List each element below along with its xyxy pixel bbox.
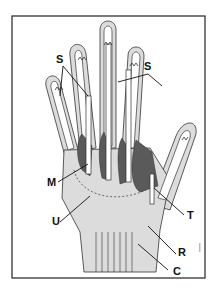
label-m: M [47, 177, 56, 188]
label-u: U [52, 216, 60, 227]
label-t: T [187, 210, 194, 221]
label-c: C [173, 266, 181, 277]
edge-mark [199, 243, 201, 252]
label-s-left: S [56, 54, 63, 65]
label-s-right: S [144, 61, 151, 72]
label-r: R [178, 247, 186, 258]
hand-tendon-diagram [0, 0, 220, 296]
